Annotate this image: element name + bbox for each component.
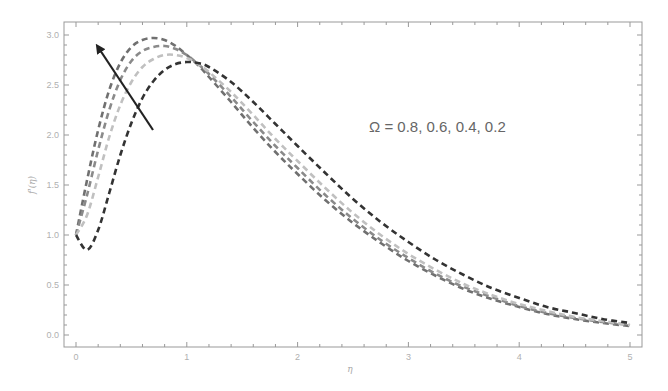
omega-annotation: Ω = 0.8, 0.6, 0.4, 0.2 [369, 118, 506, 135]
y-tick-label: 1.0 [46, 230, 59, 240]
axis-ticks [64, 22, 642, 347]
x-tick-label: 2 [295, 352, 300, 362]
series-line [76, 62, 630, 323]
x-tick-label: 4 [517, 352, 522, 362]
y-tick-label: 0.0 [46, 330, 59, 340]
y-tick-label: 2.5 [46, 80, 59, 90]
x-axis-label: η [347, 364, 353, 374]
x-tick-label: 3 [406, 352, 411, 362]
y-tick-label: 3.0 [46, 30, 59, 40]
series-line [76, 46, 630, 325]
y-axis-label: f'(η) [27, 175, 37, 195]
x-tick-label: 1 [184, 352, 189, 362]
plot-frame [64, 22, 642, 347]
data-series [76, 38, 630, 326]
y-tick-label: 0.5 [46, 280, 59, 290]
x-tick-label: 0 [73, 352, 78, 362]
series-line [76, 55, 630, 325]
x-tick-label: 5 [627, 352, 632, 362]
line-chart: 0123450.00.51.01.52.02.53.0 Ω = 0.8, 0.6… [0, 0, 668, 391]
y-tick-label: 2.0 [46, 130, 59, 140]
y-tick-label: 1.5 [46, 180, 59, 190]
series-line [76, 38, 630, 326]
